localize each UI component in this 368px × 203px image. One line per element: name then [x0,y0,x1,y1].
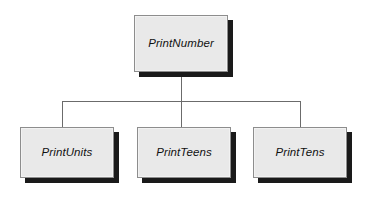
node-print-tens[interactable]: PrintTens [253,127,347,178]
diagram-canvas: PrintNumber PrintUnits PrintTeens PrintT… [0,0,368,203]
node-print-units[interactable]: PrintUnits [20,127,114,178]
node-label-print-teens: PrintTeens [156,147,212,159]
node-print-teens[interactable]: PrintTeens [137,127,231,178]
node-label-print-units: PrintUnits [42,147,93,159]
node-print-number[interactable]: PrintNumber [134,15,228,72]
node-label-print-tens: PrintTens [275,147,324,159]
node-label-print-number: PrintNumber [148,38,214,50]
